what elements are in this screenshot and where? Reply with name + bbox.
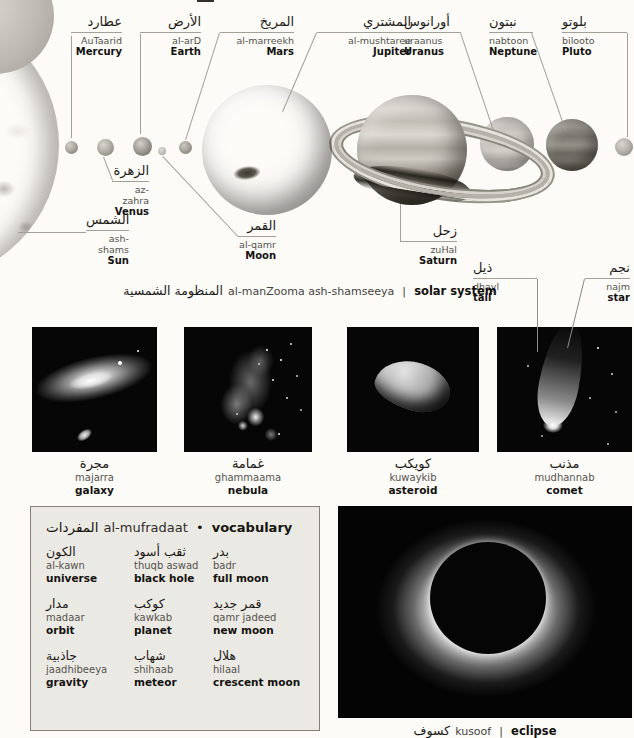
vocabulary-title: المفردات al-mufradaat • vocabulary bbox=[46, 517, 292, 536]
english-term: Earth bbox=[140, 46, 201, 58]
english-term: full moon bbox=[213, 572, 309, 585]
transliteration: madaar bbox=[46, 612, 134, 624]
arabic-term: الشمس bbox=[86, 210, 129, 229]
english-term: gravity bbox=[46, 676, 134, 689]
vocab-entry-meteor: شهاب shihaab meteor bbox=[134, 647, 213, 699]
page-crop-mark bbox=[197, 0, 214, 2]
arabic-term: شهاب bbox=[134, 647, 213, 664]
vocab-entry-new-moon: قمر جديد qamr jadeed new moon bbox=[213, 595, 309, 647]
english-term: Saturn bbox=[400, 255, 457, 267]
transliteration: zuHal bbox=[400, 244, 457, 255]
planet-neptune bbox=[546, 119, 598, 171]
arabic-term: هلال bbox=[213, 647, 309, 664]
transliteration: al-arD bbox=[140, 35, 201, 46]
transliteration: kawkab bbox=[134, 612, 213, 624]
english-term: orbit bbox=[46, 624, 134, 637]
english-term: vocabulary bbox=[212, 520, 293, 535]
arabic-term: ثقب أسود bbox=[134, 543, 213, 560]
transliteration: AuTaarid bbox=[71, 35, 122, 46]
leader-line-sun bbox=[18, 232, 86, 233]
transliteration: al-kawn bbox=[46, 560, 134, 572]
english-term: Neptune bbox=[489, 46, 533, 58]
sun-surface-texture bbox=[0, 0, 54, 74]
english-term: universe bbox=[46, 572, 134, 585]
caption-asteroid: كويكب kuwaykib asteroid bbox=[347, 455, 479, 497]
planet-mercury bbox=[65, 141, 78, 154]
transliteration: kusoof bbox=[455, 725, 491, 738]
comet-tail bbox=[531, 327, 590, 430]
star-field bbox=[266, 349, 268, 351]
english-term: Mars bbox=[220, 46, 294, 58]
vocab-entry-gravity: جاذبية jaadhibeeya gravity bbox=[46, 647, 134, 699]
vocab-entry-full-moon: بدر badr full moon bbox=[213, 543, 309, 595]
vocab-entry-universe: الكون al-kawn universe bbox=[46, 543, 134, 595]
arabic-term: كوكب bbox=[134, 595, 213, 612]
photo-galaxy bbox=[32, 327, 157, 452]
arabic-term: نجم bbox=[585, 258, 630, 277]
arabic-term: القمر bbox=[238, 216, 276, 235]
planet-earth bbox=[133, 137, 152, 156]
arabic-term: مدار bbox=[46, 595, 134, 612]
english-term: Pluto bbox=[562, 46, 627, 58]
arabic-term: كويكب bbox=[347, 455, 479, 472]
caption-comet: مذنب mudhannab comet bbox=[497, 455, 632, 497]
solar-system-caption: المنظومة الشمسية al-manZooma ash-shamsee… bbox=[120, 280, 500, 299]
arabic-term: كسوف bbox=[414, 723, 451, 738]
planet-mars bbox=[179, 141, 192, 154]
transliteration: ghammaama bbox=[184, 472, 312, 484]
english-term: new moon bbox=[213, 624, 309, 637]
arabic-term: بدر bbox=[213, 543, 309, 560]
transliteration: nabtoon bbox=[489, 35, 533, 46]
transliteration: al-marreekh bbox=[220, 35, 294, 46]
transliteration: jaadhibeeya bbox=[46, 664, 134, 676]
photo-eclipse bbox=[338, 506, 632, 718]
nebula-cloud bbox=[184, 327, 312, 452]
label-earth: الأرض al-arD Earth bbox=[140, 12, 201, 58]
arabic-term: جاذبية bbox=[46, 647, 134, 664]
transliteration: shihaab bbox=[134, 664, 213, 676]
label-moon: القمر al-qamr Moon bbox=[238, 216, 276, 262]
comet-nucleus bbox=[543, 417, 563, 433]
english-term: galaxy bbox=[32, 484, 157, 497]
arabic-term: غمامة bbox=[184, 455, 312, 472]
english-term: eclipse bbox=[511, 724, 556, 738]
caption-galaxy: مجرة majarra galaxy bbox=[32, 455, 157, 497]
transliteration: al-mushtaree bbox=[317, 35, 411, 46]
star-field bbox=[118, 361, 122, 365]
vocab-entry-crescent-moon: هلال hilaal crescent moon bbox=[213, 647, 309, 699]
english-term: nebula bbox=[184, 484, 312, 497]
arabic-term: مجرة bbox=[32, 455, 157, 472]
arabic-term: بلوتو bbox=[562, 12, 627, 31]
arabic-term: أورانوس bbox=[404, 12, 461, 31]
bullet-separator: • bbox=[193, 520, 207, 535]
moon-illustration bbox=[158, 147, 166, 155]
companion-galaxy bbox=[75, 426, 95, 444]
leader-line-tail bbox=[537, 279, 538, 352]
arabic-term: الزهرة bbox=[112, 161, 149, 180]
leader-line-pluto bbox=[627, 33, 628, 137]
photo-comet bbox=[497, 327, 632, 452]
label-mercury: عطارد AuTaarid Mercury bbox=[71, 12, 122, 58]
english-term: Moon bbox=[238, 250, 276, 262]
transliteration: al-manZooma ash-shamseeya bbox=[228, 285, 394, 298]
transliteration: az-zahra bbox=[112, 184, 149, 206]
arabic-term: نبتون bbox=[489, 12, 533, 31]
arabic-term: الكون bbox=[46, 543, 134, 560]
caption-separator: | bbox=[496, 725, 506, 738]
transliteration: qamr jadeed bbox=[213, 612, 309, 624]
transliteration: al-mufradaat bbox=[104, 520, 188, 535]
planet-jupiter bbox=[202, 85, 332, 215]
vocab-entry-planet: كوكب kawkab planet bbox=[134, 595, 213, 647]
eclipse-moon-disk bbox=[430, 542, 546, 654]
transliteration: badr bbox=[213, 560, 309, 572]
transliteration: kuwaykib bbox=[347, 472, 479, 484]
arabic-term: مذنب bbox=[497, 455, 632, 472]
arabic-term: المريخ bbox=[220, 12, 294, 31]
english-term: meteor bbox=[134, 676, 213, 689]
planet-venus bbox=[97, 139, 114, 156]
english-term: black hole bbox=[134, 572, 213, 585]
photo-nebula bbox=[184, 327, 312, 452]
arabic-term: المشتري bbox=[317, 12, 411, 31]
label-sun: الشمس ash-shams Sun bbox=[86, 210, 129, 267]
vocab-entry-orbit: مدار madaar orbit bbox=[46, 595, 134, 647]
